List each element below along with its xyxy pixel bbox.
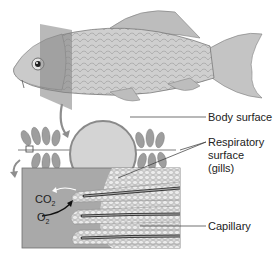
label-respiratory-line2: surface — [208, 149, 264, 162]
label-capillary: Capillary — [208, 220, 251, 233]
label-body-surface: Body surface — [208, 111, 272, 124]
fish-respiration-diagram: Body surface Respiratory surface (gills)… — [0, 0, 278, 257]
label-respiratory-surface: Respiratory surface (gills) — [208, 136, 264, 175]
fish-illustration — [14, 11, 262, 110]
label-o2: O2 — [37, 211, 49, 228]
label-respiratory-line3: (gills) — [208, 162, 264, 175]
label-respiratory-line1: Respiratory — [208, 136, 264, 149]
section-arrow-icon — [61, 104, 66, 134]
label-co2: CO2 — [35, 193, 55, 210]
